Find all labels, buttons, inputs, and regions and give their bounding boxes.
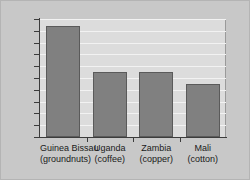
- bar: [139, 72, 173, 137]
- category-label: Uganda(coffee): [87, 143, 134, 165]
- category-label-commodity: (coffee): [87, 154, 134, 165]
- y-tick-mark: [34, 19, 39, 20]
- gridline: [40, 19, 226, 20]
- y-tick-mark: [34, 31, 39, 32]
- y-tick-mark: [34, 54, 39, 55]
- category-label-commodity: (copper): [133, 154, 180, 165]
- x-tick-mark: [180, 138, 181, 142]
- x-tick-mark: [133, 138, 134, 142]
- y-tick-mark: [34, 43, 39, 44]
- y-tick-mark: [34, 90, 39, 91]
- category-label-name: Zambia: [141, 143, 171, 153]
- category-label: Zambia(copper): [133, 143, 180, 165]
- category-label-commodity: (cotton): [180, 154, 227, 165]
- y-tick-mark: [34, 137, 39, 138]
- category-label-commodity: (groundnuts): [40, 154, 87, 165]
- bar-chart-figure: 0102030405060708090100 Guinea Bissau(gro…: [0, 0, 250, 180]
- y-axis-line: [39, 18, 40, 138]
- plot-wrapper: [40, 19, 226, 137]
- y-tick-mark: [34, 78, 39, 79]
- y-tick-mark: [34, 66, 39, 67]
- category-label: Guinea Bissau(groundnuts): [40, 143, 87, 165]
- category-label-name: Mali: [194, 143, 211, 153]
- bar: [93, 72, 127, 137]
- bar: [46, 26, 80, 137]
- y-tick-mark: [34, 125, 39, 126]
- x-tick-mark: [87, 138, 88, 142]
- bar: [186, 84, 220, 137]
- y-tick-mark: [34, 102, 39, 103]
- category-label-name: Uganda: [94, 143, 126, 153]
- y-tick-mark: [34, 113, 39, 114]
- category-label: Mali(cotton): [180, 143, 227, 165]
